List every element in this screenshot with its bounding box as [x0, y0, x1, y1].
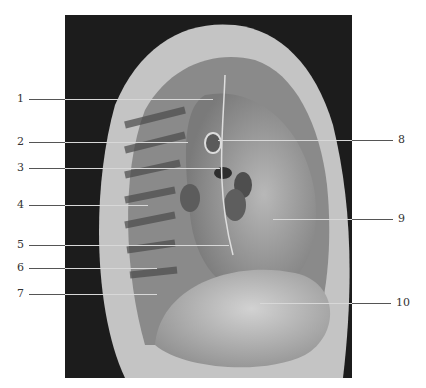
leader-line-8: [352, 140, 393, 141]
label-number-10: 10: [396, 297, 410, 308]
leader-line-7-inner: [65, 294, 157, 295]
dissection-photo: [65, 15, 352, 378]
leader-line-4-inner: [65, 205, 148, 206]
label-number-7: 7: [17, 288, 24, 299]
leader-line-2: [29, 142, 65, 143]
anatomy-figure: 1 2 3 4 5 6 7 8 9 10: [0, 0, 426, 388]
leader-line-9-inner: [273, 219, 352, 220]
label-number-8: 8: [398, 134, 405, 145]
label-number-2: 2: [17, 136, 24, 147]
leader-line-7: [29, 294, 65, 295]
leader-line-1: [29, 99, 65, 100]
label-number-5: 5: [17, 239, 24, 250]
leader-line-10: [352, 303, 391, 304]
leader-line-10-inner: [260, 303, 352, 304]
leader-line-2-inner: [65, 142, 188, 143]
leader-line-4: [29, 205, 65, 206]
label-number-4: 4: [17, 199, 24, 210]
leader-line-6: [29, 268, 65, 269]
leader-line-6-inner: [65, 268, 157, 269]
leader-line-5: [29, 245, 65, 246]
leader-line-3: [29, 168, 65, 169]
label-number-1: 1: [17, 93, 24, 104]
leader-line-8-inner: [218, 140, 352, 141]
leader-line-9: [352, 219, 393, 220]
label-number-9: 9: [398, 213, 405, 224]
leader-line-1-inner: [65, 99, 213, 100]
label-number-6: 6: [17, 262, 24, 273]
leader-line-5-inner: [65, 245, 229, 246]
leader-line-3-inner: [65, 168, 220, 169]
thorax-illustration: [65, 15, 352, 378]
label-number-3: 3: [17, 162, 24, 173]
